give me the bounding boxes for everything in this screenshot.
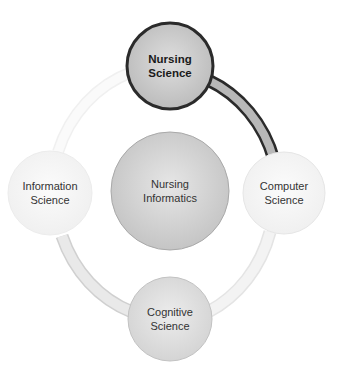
node-computer-science-label: Computer Science bbox=[260, 179, 308, 207]
connector-nursing-information bbox=[58, 72, 132, 152]
node-nursing-science-label: Nursing Science bbox=[148, 52, 191, 80]
connector-information-cognitive bbox=[62, 236, 132, 312]
node-information-science-label: Information Science bbox=[22, 179, 77, 207]
information-science-line1: Information bbox=[22, 179, 77, 193]
center-label-line2: Informatics bbox=[143, 191, 197, 205]
center-label-line1: Nursing bbox=[143, 177, 197, 191]
computer-science-line2: Science bbox=[260, 193, 308, 207]
cognitive-science-line2: Science bbox=[147, 319, 193, 333]
computer-science-line1: Computer bbox=[260, 179, 308, 193]
information-science-line2: Science bbox=[22, 193, 77, 207]
nursing-science-line1: Nursing bbox=[148, 52, 191, 66]
node-cognitive-science-label: Cognitive Science bbox=[147, 305, 193, 333]
connector-nursing-computer bbox=[208, 80, 274, 160]
cognitive-science-line1: Cognitive bbox=[147, 305, 193, 319]
nursing-science-line2: Science bbox=[148, 66, 191, 80]
center-node-label: Nursing Informatics bbox=[143, 177, 197, 205]
connector-cognitive-computer bbox=[208, 232, 270, 312]
